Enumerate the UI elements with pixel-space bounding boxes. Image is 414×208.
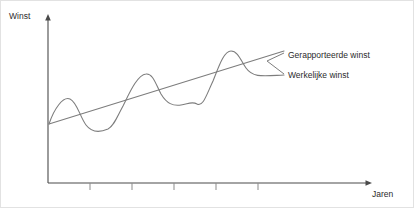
legend-item-werkelijke-winst: Werkelijke winst: [288, 71, 349, 80]
y-axis-arrowhead: [45, 14, 51, 21]
legend-item-gerapporteerde-winst: Gerapporteerde winst: [288, 51, 370, 60]
x-axis-arrowhead: [366, 180, 373, 186]
x-axis-ticks: [90, 183, 258, 190]
legend-leader-lines: [267, 53, 284, 74]
axes-group: [45, 14, 372, 186]
series-line-werkelijke-winst: [49, 51, 284, 131]
x-axis-label: Jaren: [372, 190, 393, 199]
chart-canvas: [1, 1, 414, 208]
y-axis-label: Winst: [9, 12, 30, 21]
leader-line-werkelijke-winst: [267, 61, 284, 74]
series-line-gerapporteerde-winst: [49, 51, 284, 124]
profit-chart-figure: Winst Jaren Gerapporteerde winst Werkeli…: [0, 0, 414, 208]
